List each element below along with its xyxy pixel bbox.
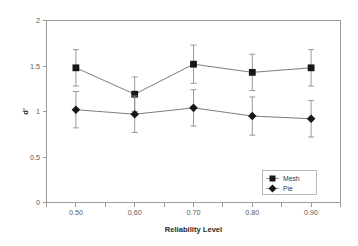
x-tick-label-4: 0.90 bbox=[304, 208, 318, 217]
data-point-mesh-4[interactable] bbox=[308, 64, 315, 71]
x-tick-label-3: 0.80 bbox=[245, 208, 259, 217]
legend-entry-mesh[interactable]: Mesh bbox=[266, 175, 300, 182]
legend-label-mesh: Mesh bbox=[283, 175, 300, 182]
y-tick-label-2: 2 bbox=[36, 16, 40, 25]
data-point-mesh-2[interactable] bbox=[190, 61, 197, 68]
chart-figure: 0 0.5 1 1.5 2 d' 0.50 0.60 0.70 0.80 0.9… bbox=[0, 0, 358, 246]
x-axis-title: Reliability Level bbox=[165, 225, 222, 234]
x-tick-label-1: 0.60 bbox=[128, 208, 142, 217]
x-tick-label-2: 0.70 bbox=[187, 208, 201, 217]
square-marker-icon bbox=[270, 176, 276, 182]
y-tick-label-1.5: 1.5 bbox=[30, 62, 40, 71]
x-tick-label-0: 0.50 bbox=[69, 208, 83, 217]
y-tick-label-0: 0 bbox=[36, 198, 40, 207]
data-point-mesh-3[interactable] bbox=[249, 69, 256, 76]
y-tick-label-0.5: 0.5 bbox=[30, 153, 40, 162]
line-chart-with-error-bars: 0 0.5 1 1.5 2 d' 0.50 0.60 0.70 0.80 0.9… bbox=[0, 0, 358, 246]
y-axis-title: d' bbox=[21, 108, 30, 115]
legend-label-pie: Pie bbox=[283, 185, 293, 192]
y-tick-label-1: 1 bbox=[36, 107, 40, 116]
chart-legend[interactable]: Mesh Pie bbox=[263, 171, 317, 195]
data-point-mesh-0[interactable] bbox=[73, 64, 80, 71]
